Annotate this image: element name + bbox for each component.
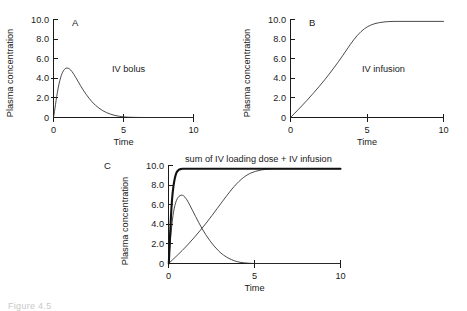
panel-a-letter: A — [72, 17, 79, 28]
panel-c-xlabel: Time — [244, 283, 264, 293]
panel-b-ytick-10: 10.0 — [268, 15, 286, 25]
panel-b-annotation: IV infusion — [362, 64, 405, 74]
panel-c-letter: C — [104, 160, 111, 171]
panel-b-ytick-0: 0 — [281, 113, 286, 123]
panel-c-ytick-8: 8.0 — [151, 180, 164, 190]
panel-b-xtick-0: 0 — [288, 125, 293, 135]
panel-b-plot: Plasma concentration 10.0 8.0 6.0 4.0 2.… — [237, 0, 467, 150]
panel-c-ytick-2: 2.0 — [151, 239, 164, 249]
panel-b-ylabel: Plasma concentration — [242, 29, 252, 117]
panel-a-ylabel: Plasma concentration — [5, 29, 15, 117]
panel-b-ytick-8: 8.0 — [273, 34, 286, 44]
panel-c-ytick-6: 6.0 — [151, 200, 164, 210]
panel-c-curve-sum — [169, 169, 341, 264]
panel-b-ytick-2: 2.0 — [273, 93, 286, 103]
panel-b-ytick-4: 4.0 — [273, 73, 286, 83]
panel-b-xtick-10: 10 — [438, 125, 448, 135]
panel-a-xtick-5: 5 — [121, 125, 126, 135]
panel-b-xtick-5: 5 — [364, 125, 369, 135]
panel-c: C Plasma concentration 10.0 8.0 6.0 4.0 … — [100, 152, 370, 308]
panel-c-ytick-0: 0 — [159, 259, 164, 269]
panel-c-curve-iv-bolus — [169, 195, 341, 263]
panel-b-xlabel: Time — [357, 137, 377, 147]
panel-a-ytick-4: 4.0 — [36, 73, 49, 83]
panel-c-ylabel: Plasma concentration — [120, 177, 130, 265]
panel-a-curve-iv-bolus — [54, 68, 194, 118]
panel-b-ytick-6: 6.0 — [273, 54, 286, 64]
panel-a-xlabel: Time — [113, 137, 133, 147]
panel-a-ytick-2: 2.0 — [36, 93, 49, 103]
panel-c-xtick-0: 0 — [166, 271, 171, 281]
panel-a-ytick-10: 10.0 — [31, 15, 49, 25]
panel-a: Plasma concentration 10.0 8.0 6.0 4.0 2.… — [0, 0, 230, 150]
panel-a-ytick-6: 6.0 — [36, 54, 49, 64]
panel-a-annotation: IV bolus — [112, 64, 146, 74]
panel-c-ytick-4: 4.0 — [151, 219, 164, 229]
panel-c-plot: C Plasma concentration 10.0 8.0 6.0 4.0 … — [100, 152, 370, 308]
panel-c-xtick-10: 10 — [335, 271, 345, 281]
panel-a-ytick-0: 0 — [44, 113, 49, 123]
panel-b-letter: B — [309, 17, 315, 28]
panel-c-ytick-10: 10.0 — [146, 161, 164, 171]
figure-caption: Figure 4.5 — [8, 301, 52, 311]
panel-b: Plasma concentration 10.0 8.0 6.0 4.0 2.… — [237, 0, 467, 150]
panel-a-plot: Plasma concentration 10.0 8.0 6.0 4.0 2.… — [0, 0, 230, 150]
panel-c-xtick-5: 5 — [252, 271, 257, 281]
panel-c-curve-iv-infusion — [169, 169, 341, 264]
panel-a-ytick-8: 8.0 — [36, 34, 49, 44]
panel-a-xtick-10: 10 — [188, 125, 198, 135]
panel-c-annotation: sum of IV loading dose + IV infusion — [185, 154, 332, 164]
panel-a-xtick-0: 0 — [51, 125, 56, 135]
